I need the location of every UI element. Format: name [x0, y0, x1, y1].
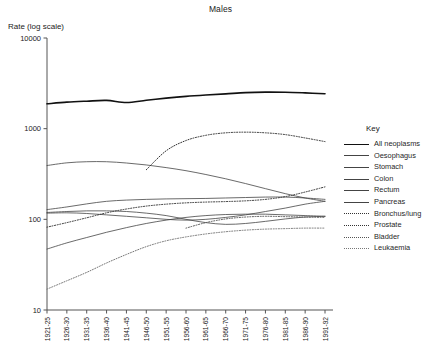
legend-item[interactable]: Bladder: [344, 231, 440, 243]
legend-swatch-prostate: [344, 219, 370, 231]
legend-item[interactable]: Oesophagus: [344, 150, 440, 162]
legend-label: Bronchus/lung: [370, 208, 421, 220]
y-tick-label: 10000: [20, 34, 41, 43]
x-tick-label: 1941-45: [123, 317, 130, 342]
legend-swatch-colon: [344, 173, 370, 185]
legend-label: Prostate: [370, 219, 402, 231]
legend-item[interactable]: All neoplasms: [344, 138, 440, 150]
y-tick-label: 100: [28, 215, 41, 224]
legend-swatch-pancreas: [344, 196, 370, 208]
series-line-bronchus-lung: [146, 132, 325, 170]
legend-item[interactable]: Prostate: [344, 219, 440, 231]
legend-label: Stomach: [370, 161, 403, 173]
legend-swatch-bronchus-lung: [344, 208, 370, 220]
x-tick-label: 1971-75: [242, 317, 249, 342]
x-tick-label: 1926-30: [63, 317, 70, 342]
x-tick-label: 1966-70: [222, 317, 229, 342]
x-tick-label: 1946-50: [143, 317, 150, 342]
x-tick-label: 1961-65: [202, 317, 209, 342]
y-tick-label: 1000: [24, 124, 41, 133]
legend-swatch-bladder: [344, 231, 370, 243]
x-tick-label: 1976-80: [262, 317, 269, 342]
x-tick-label: 1931-35: [83, 317, 90, 342]
chart-page: Males Rate (log scale) 10000100010010192…: [0, 0, 441, 360]
x-tick-label: 1951-55: [163, 317, 170, 342]
legend-item[interactable]: Stomach: [344, 161, 440, 173]
series-line-stomach: [47, 162, 325, 202]
legend-swatch-stomach: [344, 161, 370, 173]
legend-item[interactable]: Leukaemia: [344, 242, 440, 254]
x-tick-label: 1956-60: [183, 317, 190, 342]
legend-swatch-leukaemia: [344, 242, 370, 254]
legend-swatch-all-neoplasms: [344, 138, 370, 150]
legend-title: Key: [366, 124, 380, 133]
x-tick-label: 1921-25: [44, 317, 51, 342]
legend-item[interactable]: Rectum: [344, 184, 440, 196]
legend: All neoplasmsOesophagusStomachColonRectu…: [344, 138, 440, 254]
x-tick-label: 1936-40: [103, 317, 110, 342]
y-tick-label: 10: [33, 306, 41, 315]
legend-item[interactable]: Pancreas: [344, 196, 440, 208]
legend-label: Leukaemia: [370, 242, 410, 254]
legend-swatch-oesophagus: [344, 150, 370, 162]
legend-item[interactable]: Bronchus/lung: [344, 208, 440, 220]
x-tick-label: 1986-90: [302, 317, 309, 342]
legend-label: Oesophagus: [370, 150, 416, 162]
legend-swatch-rectum: [344, 184, 370, 196]
legend-label: Rectum: [370, 184, 399, 196]
legend-label: Colon: [370, 173, 393, 185]
legend-label: Pancreas: [370, 196, 405, 208]
x-tick-label: 1991-92: [322, 317, 329, 342]
legend-label: All neoplasms: [370, 138, 420, 150]
x-tick-label: 1981-85: [282, 317, 289, 342]
legend-label: Bladder: [370, 231, 399, 243]
series-line-all-neoplasms: [47, 92, 325, 104]
legend-item[interactable]: Colon: [344, 173, 440, 185]
